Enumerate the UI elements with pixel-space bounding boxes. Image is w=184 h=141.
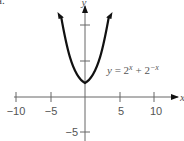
x-tick-label-5: 5 (118, 105, 124, 117)
y-axis-label: y (81, 0, 87, 8)
x-tick-label-neg10: −10 (7, 105, 26, 117)
graph: a. −10 −5 5 10 −5 x y y = 2x + 2−x (0, 0, 184, 141)
x-axis-label: x (179, 91, 184, 103)
part-label: a. (0, 0, 5, 6)
y-tick-label-neg5: −5 (65, 126, 78, 138)
curve-arrow-left-icon (58, 12, 64, 19)
curve-arrow-right-icon (106, 12, 112, 19)
equation-label: y = 2x + 2−x (106, 63, 159, 76)
x-tick-label-10: 10 (150, 105, 162, 117)
x-tick-label-neg5: −5 (45, 105, 58, 117)
